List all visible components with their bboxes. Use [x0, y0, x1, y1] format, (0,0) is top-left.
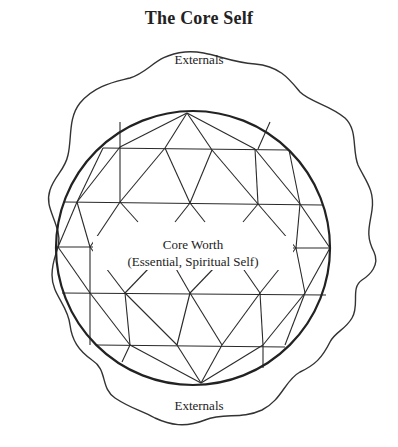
externals-label-bottom: Externals: [0, 398, 398, 414]
externals-label-top: Externals: [0, 52, 398, 68]
core-worth-label: Core Worth (Essential, Spiritual Self): [93, 236, 293, 270]
core-worth-subtitle: (Essential, Spiritual Self): [93, 253, 293, 270]
core-worth-title: Core Worth: [93, 236, 293, 253]
